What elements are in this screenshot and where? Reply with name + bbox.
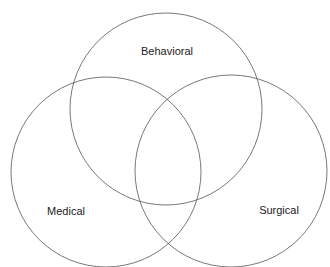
- venn-diagram: Behavioral Medical Surgical: [0, 0, 330, 267]
- circle-surgical: [135, 75, 327, 267]
- circle-behavioral: [70, 13, 262, 205]
- label-medical: Medical: [47, 205, 85, 217]
- label-surgical: Surgical: [259, 204, 299, 216]
- label-behavioral: Behavioral: [141, 45, 193, 57]
- circle-medical: [11, 77, 201, 267]
